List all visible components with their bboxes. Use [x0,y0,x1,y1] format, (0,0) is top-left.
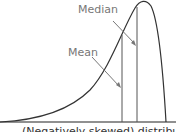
distribution-curve [0,1,166,122]
median-label: Median [78,3,118,16]
median-arrow [113,21,135,44]
mean-label: Mean [68,46,98,59]
skew-diagram [0,0,176,132]
caption: (Negatively skewed) distribution [22,125,176,132]
